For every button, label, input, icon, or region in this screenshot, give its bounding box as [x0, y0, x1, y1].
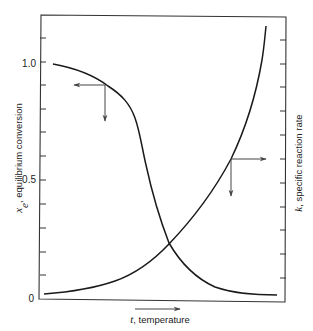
right-axis-text: , specific reaction rate — [293, 114, 304, 206]
equilibrium-conversion-curve — [53, 64, 277, 295]
tick-label-0-5: 0.5 — [22, 174, 36, 185]
rate-curve-arrows — [231, 159, 266, 196]
x-axis-text: , temperature — [133, 314, 190, 325]
tick-label-0: 0 — [28, 293, 34, 304]
left-axis-text: , equilibrium conversion — [13, 103, 24, 203]
specific-reaction-rate-curve — [44, 26, 266, 294]
conversion-curve-arrows — [74, 85, 105, 121]
left-axis-label: xe, equilibrium conversion — [12, 103, 30, 214]
tick-label-1-0: 1.0 — [22, 58, 36, 69]
x-axis-label: t, temperature — [130, 313, 190, 325]
right-axis-label: k, specific reaction rate — [292, 114, 304, 211]
conversion-rate-temperature-diagram: 1.0 0.5 0 xe, equilibrium conversion k, … — [0, 0, 313, 331]
